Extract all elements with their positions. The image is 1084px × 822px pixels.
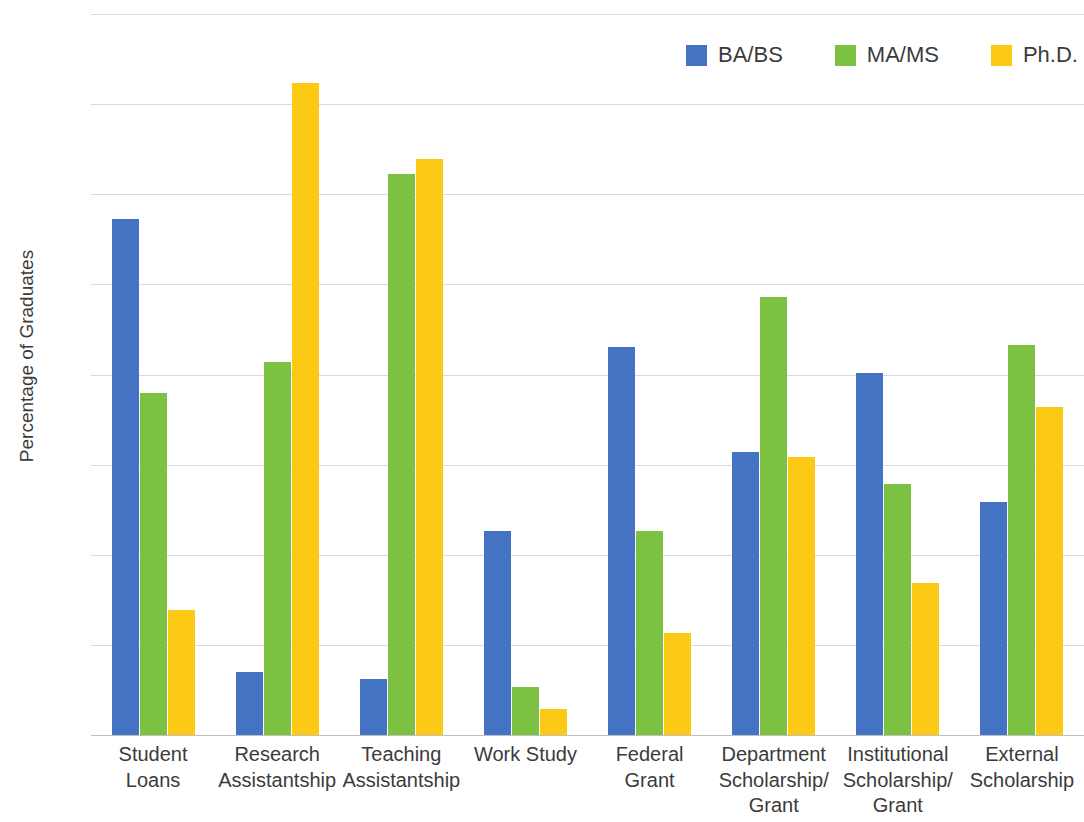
y-axis-title: Percentage of Graduates [16, 206, 38, 506]
bar-group [588, 14, 712, 735]
legend-label: BA/BS [718, 42, 783, 68]
bar [980, 502, 1007, 735]
bar-group [91, 14, 215, 735]
legend-item: BA/BS [686, 42, 783, 68]
bar [484, 531, 511, 735]
bar-chart: Percentage of Graduates 80%70%60%50%40%3… [0, 0, 1084, 822]
bar-group [960, 14, 1084, 735]
bar [168, 610, 195, 735]
bar [388, 174, 415, 735]
bar [416, 159, 443, 735]
bar [788, 457, 815, 735]
bar [264, 362, 291, 735]
bar [664, 633, 691, 735]
x-axis-tick-label: Institutional Scholarship/ Grant [836, 742, 960, 819]
chart-legend: BA/BSMA/MSPh.D. [686, 42, 1078, 68]
x-axis-tick-label: Department Scholarship/ Grant [712, 742, 836, 819]
bar [512, 687, 539, 735]
bar [912, 583, 939, 735]
legend-label: Ph.D. [1023, 42, 1078, 68]
bar [760, 297, 787, 735]
legend-swatch-icon [686, 45, 707, 66]
bar [884, 484, 911, 735]
bar [608, 347, 635, 735]
x-axis-tick-label: Research Assistantship [215, 742, 339, 793]
legend-swatch-icon [835, 45, 856, 66]
bar-group-bars [463, 14, 587, 735]
bar-group [836, 14, 960, 735]
bar-group [712, 14, 836, 735]
legend-label: MA/MS [867, 42, 939, 68]
x-axis-tick-label: External Scholarship [960, 742, 1084, 793]
bar [732, 452, 759, 735]
bar-group-bars [588, 14, 712, 735]
bar-group-bars [339, 14, 463, 735]
gridline [91, 735, 1084, 736]
bar-group-bars [836, 14, 960, 735]
bar [540, 709, 567, 735]
legend-item: MA/MS [835, 42, 939, 68]
bar-group-bars [215, 14, 339, 735]
bar-group-bars [91, 14, 215, 735]
bar [1008, 345, 1035, 735]
bar [140, 393, 167, 735]
x-axis-tick-label: Teaching Assistantship [339, 742, 463, 793]
bar [112, 219, 139, 735]
x-axis-tick-label: Federal Grant [588, 742, 712, 793]
legend-item: Ph.D. [991, 42, 1078, 68]
bar [360, 679, 387, 735]
legend-swatch-icon [991, 45, 1012, 66]
bar-group [463, 14, 587, 735]
bar [636, 531, 663, 735]
plot-area: 80%70%60%50%40%30%20%10%0% [91, 14, 1084, 735]
bar [236, 672, 263, 735]
bar [292, 83, 319, 735]
bar-group-bars [712, 14, 836, 735]
bar-group [339, 14, 463, 735]
bar-group [215, 14, 339, 735]
bar [1036, 407, 1063, 735]
x-axis-tick-label: Student Loans [91, 742, 215, 793]
bar [856, 373, 883, 735]
x-axis-tick-label: Work Study [463, 742, 587, 768]
bar-group-bars [960, 14, 1084, 735]
